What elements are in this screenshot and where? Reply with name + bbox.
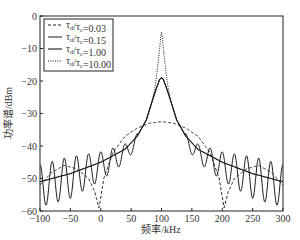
x-tick-label: −50 (63, 213, 79, 224)
y-tick-label: −40 (21, 141, 37, 152)
x-tick-label: 0 (98, 213, 103, 224)
y-tick-label: −10 (21, 43, 37, 54)
y-tick-label: 0 (32, 11, 37, 22)
x-tick-label: 150 (184, 213, 199, 224)
x-tick-label: 200 (215, 213, 230, 224)
legend: τd/τc=0.03τd/τc=0.15τd/τc=1.00τd/τc=10.0… (44, 19, 113, 71)
x-tick-label: 300 (276, 213, 291, 224)
y-axis-label: 功率谱/dBm (2, 87, 14, 139)
x-tick-label: 100 (154, 213, 169, 224)
y-tick-label: −50 (21, 173, 37, 184)
y-tick-label: −20 (21, 76, 37, 87)
x-axis-label: 频率/kHz (141, 223, 181, 235)
x-tick-label: 250 (245, 213, 260, 224)
series-line-1 (40, 78, 283, 205)
y-tick-label: −60 (21, 206, 37, 217)
y-tick-label: −30 (21, 108, 37, 119)
series-line-0 (40, 122, 283, 208)
power-spectrum-chart: −100−500501001502002503000−10−20−30−40−5… (0, 0, 300, 240)
series-line-2 (40, 78, 283, 182)
x-tick-label: 50 (126, 213, 136, 224)
